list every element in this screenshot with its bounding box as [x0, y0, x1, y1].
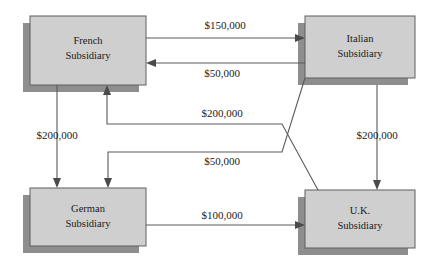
node-french-label-line2: Subsidiary	[66, 50, 112, 61]
node-italian-face	[305, 16, 415, 78]
edge-italian-to-german: $50,000	[104, 78, 305, 188]
node-french[interactable]: French Subsidiary	[23, 16, 146, 92]
node-uk[interactable]: U.K. Subsidiary	[298, 190, 415, 255]
edge-italian-to-german-arrowhead	[104, 178, 112, 188]
edge-italian-to-german-amount: $50,000	[204, 155, 240, 167]
edge-french-to-italian: $150,000	[146, 19, 305, 42]
edge-french-to-german-arrowhead	[53, 178, 61, 188]
node-uk-face	[305, 190, 415, 248]
node-italian[interactable]: Italian Subsidiary	[298, 16, 415, 85]
edge-uk-to-french-amount: $200,000	[201, 107, 243, 119]
node-uk-label-line2: Subsidiary	[338, 220, 384, 231]
intercompany-transfers-diagram: French Subsidiary Italian Subsidiary Ger…	[0, 0, 428, 271]
edge-italian-to-german-line	[108, 78, 305, 183]
edge-german-to-uk-amount: $100,000	[201, 209, 243, 221]
edge-uk-to-french-line	[107, 90, 318, 190]
edge-french-to-german-amount: $200,000	[36, 129, 78, 141]
node-uk-label-line1: U.K.	[350, 205, 370, 216]
node-german-label-line2: Subsidiary	[66, 218, 112, 229]
node-italian-label-line2: Subsidiary	[338, 48, 384, 59]
node-italian-label-line1: Italian	[347, 33, 375, 44]
edge-french-to-italian-amount: $150,000	[204, 19, 246, 31]
node-german-face	[30, 188, 146, 246]
diagram-canvas: French Subsidiary Italian Subsidiary Ger…	[0, 0, 428, 271]
node-french-label-line1: French	[73, 35, 103, 46]
edge-italian-to-french-amount: $50,000	[204, 67, 240, 79]
edge-italian-to-uk-amount: $200,000	[356, 129, 398, 141]
node-german[interactable]: German Subsidiary	[23, 188, 146, 253]
edge-uk-to-french: $200,000	[103, 85, 318, 190]
node-german-label-line1: German	[71, 203, 106, 214]
edge-italian-to-uk-arrowhead	[373, 180, 381, 190]
edge-french-to-german: $200,000	[36, 85, 78, 188]
edge-italian-to-uk: $200,000	[356, 85, 398, 190]
edge-italian-to-french: $50,000	[146, 59, 305, 79]
edge-italian-to-french-arrowhead	[146, 59, 156, 67]
edge-german-to-uk: $100,000	[146, 209, 305, 229]
